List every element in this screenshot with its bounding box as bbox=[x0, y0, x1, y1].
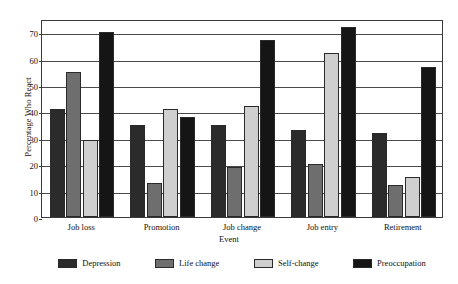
x-axis-title: Event bbox=[0, 234, 458, 244]
bar bbox=[180, 117, 195, 217]
y-axis-tick-mark bbox=[39, 193, 42, 194]
bar bbox=[372, 133, 387, 217]
bar bbox=[405, 177, 420, 217]
x-axis-tick-label: Job change bbox=[223, 222, 261, 232]
y-axis-tick-mark bbox=[39, 219, 42, 220]
y-axis-tick-mark bbox=[39, 113, 42, 114]
bar bbox=[260, 40, 275, 217]
bar bbox=[163, 109, 178, 217]
legend-label: Depression bbox=[82, 258, 120, 268]
legend-label: Self-change bbox=[278, 258, 319, 268]
y-axis-tick-label: 30 bbox=[30, 136, 39, 145]
y-axis-tick-label: 70 bbox=[30, 30, 39, 39]
legend-item: Life change bbox=[155, 258, 219, 268]
legend-item: Preoccupation bbox=[353, 258, 426, 268]
legend-swatch bbox=[353, 259, 372, 268]
bar bbox=[421, 67, 436, 217]
x-axis-tick-label: Job entry bbox=[307, 222, 338, 232]
bar bbox=[66, 72, 81, 217]
chart-legend: DepressionLife changeSelf-changePreoccup… bbox=[41, 255, 443, 271]
legend-item: Self-change bbox=[254, 258, 319, 268]
y-axis-tick-label: 0 bbox=[34, 215, 38, 224]
y-axis-tick-label: 50 bbox=[30, 83, 39, 92]
plot-area: 010203040506070 bbox=[41, 20, 443, 218]
legend-label: Life change bbox=[179, 258, 219, 268]
bar bbox=[388, 185, 403, 217]
x-axis-tick-label: Promotion bbox=[144, 222, 180, 232]
bar bbox=[130, 125, 145, 217]
bar bbox=[244, 106, 259, 217]
bar bbox=[324, 53, 339, 217]
bar bbox=[211, 125, 226, 217]
legend-label: Preoccupation bbox=[377, 258, 426, 268]
legend-swatch bbox=[155, 259, 174, 268]
bar bbox=[99, 32, 114, 217]
bar bbox=[308, 164, 323, 217]
y-axis-tick-label: 10 bbox=[30, 188, 39, 197]
y-axis-tick-mark bbox=[39, 166, 42, 167]
x-axis-tick-label: Job loss bbox=[68, 222, 95, 232]
bar bbox=[147, 183, 162, 217]
bar bbox=[83, 140, 98, 217]
x-axis-tick-label: Retirement bbox=[384, 222, 422, 232]
legend-swatch bbox=[58, 259, 77, 268]
y-axis-tick-label: 20 bbox=[30, 162, 39, 171]
y-axis-tick-mark bbox=[39, 87, 42, 88]
y-axis-tick-mark bbox=[39, 34, 42, 35]
bar bbox=[50, 109, 65, 217]
plot-inner: 010203040506070 bbox=[42, 21, 442, 217]
y-axis-tick-mark bbox=[39, 140, 42, 141]
legend-swatch bbox=[254, 259, 273, 268]
bar bbox=[227, 167, 242, 217]
y-axis-tick-label: 60 bbox=[30, 56, 39, 65]
legend-item: Depression bbox=[58, 258, 120, 268]
y-axis-tick-label: 40 bbox=[30, 109, 39, 118]
y-axis-tick-mark bbox=[39, 61, 42, 62]
bar bbox=[291, 130, 306, 217]
bar-chart-figure: Percentage Who React 010203040506070 Eve… bbox=[0, 0, 458, 284]
bar bbox=[341, 27, 356, 217]
